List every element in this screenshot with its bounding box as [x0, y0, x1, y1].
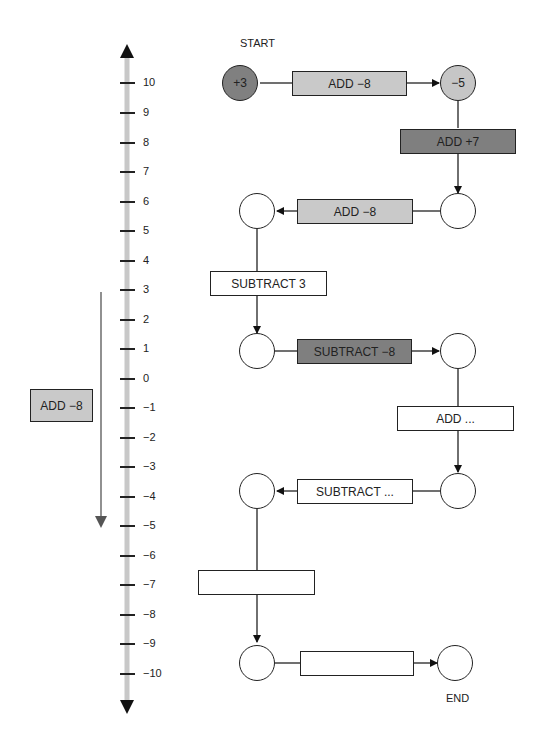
tick-label: 9	[143, 106, 149, 118]
tick	[120, 319, 135, 321]
flow-node[interactable]	[239, 473, 275, 509]
step-box[interactable]	[198, 570, 315, 595]
flow-node[interactable]	[239, 645, 275, 681]
tick	[120, 407, 135, 409]
tick-label: −4	[143, 490, 156, 502]
tick	[120, 260, 135, 262]
connectors	[0, 0, 543, 752]
end-label: END	[446, 692, 469, 704]
tick-label: 5	[143, 224, 149, 236]
tick-label: 8	[143, 136, 149, 148]
flow-node[interactable]	[440, 473, 476, 509]
tick-label: −9	[143, 637, 156, 649]
tick	[120, 614, 135, 616]
tick-label: −5	[143, 519, 156, 531]
step-box[interactable]: ADD ...	[397, 406, 514, 431]
tick	[120, 82, 135, 84]
step-box[interactable]: SUBTRACT ...	[297, 479, 413, 504]
tick-label: −10	[143, 667, 162, 679]
tick	[120, 673, 135, 675]
tick-label: 1	[143, 342, 149, 354]
tick-label: 0	[143, 372, 149, 384]
step-box: ADD −8	[292, 71, 407, 96]
step-box: SUBTRACT 3	[210, 271, 327, 296]
side-add-box: ADD −8	[30, 389, 93, 422]
step-box[interactable]	[300, 651, 414, 676]
flow-node[interactable]	[440, 333, 476, 369]
tick-label: 3	[143, 283, 149, 295]
step-box: ADD +7	[400, 129, 516, 154]
tick	[120, 289, 135, 291]
tick	[120, 643, 135, 645]
flow-node[interactable]: −5	[440, 65, 476, 101]
tick	[120, 201, 135, 203]
tick-label: 6	[143, 195, 149, 207]
tick	[120, 525, 135, 527]
step-box: ADD −8	[297, 199, 413, 224]
tick	[120, 466, 135, 468]
flow-node-start[interactable]: +3	[222, 65, 258, 101]
tick-label: 7	[143, 165, 149, 177]
tick-label: 10	[143, 76, 155, 88]
tick-label: −2	[143, 431, 156, 443]
flow-node-end[interactable]	[437, 645, 473, 681]
tick	[120, 348, 135, 350]
tick	[120, 555, 135, 557]
tick	[120, 378, 135, 380]
tick	[120, 230, 135, 232]
tick-label: −6	[143, 549, 156, 561]
start-label: START	[240, 37, 275, 49]
flow-node[interactable]	[239, 193, 275, 229]
tick-label: −8	[143, 608, 156, 620]
tick-label: −7	[143, 578, 156, 590]
tick	[120, 437, 135, 439]
tick-label: −3	[143, 460, 156, 472]
tick-label: 4	[143, 254, 149, 266]
tick	[120, 584, 135, 586]
step-box: SUBTRACT −8	[297, 339, 412, 364]
tick	[120, 112, 135, 114]
flow-node[interactable]	[440, 193, 476, 229]
tick	[120, 496, 135, 498]
tick-label: −1	[143, 401, 156, 413]
tick-label: 2	[143, 313, 149, 325]
tick	[120, 142, 135, 144]
tick	[120, 171, 135, 173]
flow-node[interactable]	[239, 333, 275, 369]
